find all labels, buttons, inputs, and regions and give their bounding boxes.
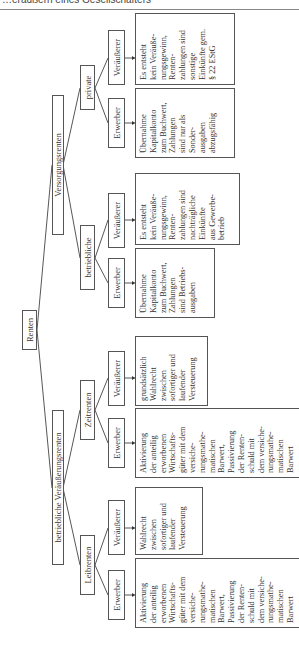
node-betriebliche-erwerber: Erwerber	[108, 258, 125, 308]
detail-betriebliche-erwerber: Übernahme Kapitalkonto zum Buchwert, Zah…	[135, 248, 215, 318]
node-versorgungsrenten: Versorgungsrenten	[52, 95, 64, 235]
node-private-erwerber: Erwerber	[108, 98, 125, 148]
detail-betriebliche-veraeusserer: Es entsteht kein Veräuße- rungsgewinn, R…	[135, 173, 240, 245]
renten-diagram: Renten betriebliche Veräußerungsrenten V…	[0, 0, 299, 668]
node-leibrenten-erwerber: Erwerber	[108, 570, 125, 620]
node-leibrenten-veraeusserer: Veräußerer	[108, 500, 125, 555]
node-private: private	[80, 65, 95, 110]
node-betriebliche: betriebliche	[80, 225, 95, 290]
node-leibrenten: Leibrenten	[80, 535, 95, 595]
detail-leibrenten-veraeusserer: Wahlrecht zwischen sofortiger und laufen…	[135, 487, 203, 555]
detail-private-erwerber: Übernahme Kapitalkonto zum Buchwert, Zah…	[135, 88, 235, 158]
detail-zeitrenten-veraeusserer: grundsätzlich Wahlrecht zwischen soforti…	[135, 336, 208, 406]
node-zeitrenten-veraeusserer: Veräußerer	[108, 351, 125, 406]
node-zeitrenten-erwerber: Erwerber	[108, 418, 125, 468]
detail-leibrenten-erwerber: Aktivierung der anteilig erworbenen Wirt…	[135, 558, 299, 628]
node-renten: Renten	[22, 310, 37, 350]
node-private-veraeusserer: Veräußerer	[108, 30, 125, 85]
node-betriebliche-veraeusserungsrenten: betriebliche Veräußerungsrenten	[52, 410, 64, 565]
detail-zeitrenten-erwerber: Aktivierung der anteilig erworbenen Wirt…	[135, 408, 299, 478]
node-betriebliche-veraeusserer: Veräußerer	[108, 193, 125, 248]
node-zeitrenten: Zeitrenten	[80, 380, 95, 440]
detail-private-veraeusserer: Es entsteht kein Veräuße- rungsgewinn, R…	[135, 13, 235, 85]
